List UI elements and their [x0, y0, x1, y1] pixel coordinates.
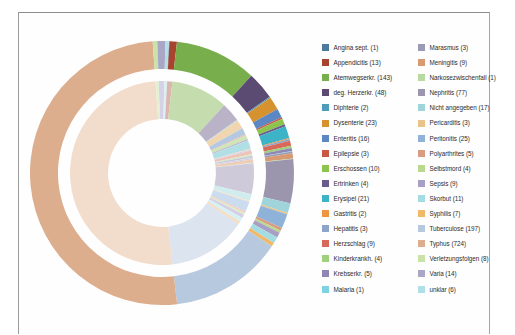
legend-swatch-icon — [322, 255, 329, 262]
legend-item-label: deg. Herzerkr. (48) — [334, 85, 387, 100]
legend-swatch-icon — [322, 180, 329, 187]
legend-swatch-icon — [322, 286, 329, 293]
legend-column-left: Angina sept. (1)Appendicitis (13)Atemweg… — [322, 40, 414, 320]
legend-swatch-icon — [418, 286, 425, 293]
legend-swatch-icon — [418, 165, 425, 172]
legend-item-label: Peritonitis (25) — [430, 131, 470, 146]
legend-swatch-icon — [418, 255, 425, 262]
legend-item[interactable]: Narkosezwischenfall (1) — [418, 70, 510, 85]
legend-item-label: Appendicitis (13) — [334, 55, 381, 70]
legend-item[interactable]: Appendicitis (13) — [322, 55, 414, 70]
legend-item-label: Herzschlag (9) — [334, 236, 375, 251]
legend-item[interactable]: Ertrinken (4) — [322, 176, 414, 191]
legend-item-label: Pericarditis (3) — [430, 115, 470, 130]
legend-swatch-icon — [322, 89, 329, 96]
legend-swatch-icon — [418, 74, 425, 81]
legend-item-label: Skorbut (11) — [430, 191, 464, 206]
legend-item-label: Selbstmord (4) — [430, 161, 471, 176]
legend-item-label: Atemwegserkr. (143) — [334, 70, 393, 85]
legend-swatch-icon — [322, 135, 329, 142]
legend-swatch-icon — [322, 120, 329, 127]
legend-swatch-icon — [418, 210, 425, 217]
legend-swatch-icon — [322, 225, 329, 232]
legend-item[interactable]: Typhus (724) — [418, 236, 510, 251]
outer-ring — [30, 41, 294, 305]
legend-item-label: Meningitis (9) — [430, 55, 468, 70]
legend-item[interactable]: Peritonitis (25) — [418, 131, 510, 146]
legend-item-label: Krebserkr. (5) — [334, 266, 372, 281]
legend-swatch-icon — [418, 120, 425, 127]
donut-chart — [28, 22, 296, 324]
legend-item-label: Kinderkrankh. (4) — [334, 251, 383, 266]
legend-item[interactable]: Tuberculose (197) — [418, 221, 510, 236]
legend-item[interactable]: Erschossen (10) — [322, 161, 414, 176]
legend-item[interactable]: Hepatitis (3) — [322, 221, 414, 236]
legend-item[interactable]: deg. Herzerkr. (48) — [322, 85, 414, 100]
legend-item[interactable]: Meningitis (9) — [418, 55, 510, 70]
legend-item-label: Hepatitis (3) — [334, 221, 368, 236]
legend-item[interactable]: Diphterie (2) — [322, 100, 414, 115]
legend-item[interactable]: Malaria (1) — [322, 282, 414, 297]
legend-item[interactable]: Polyarthrites (5) — [418, 146, 510, 161]
legend-swatch-icon — [322, 240, 329, 247]
legend-item-label: Narkosezwischenfall (1) — [430, 70, 496, 85]
legend-item-label: Ertrinken (4) — [334, 176, 369, 191]
legend-swatch-icon — [322, 195, 329, 202]
legend-item[interactable]: Skorbut (11) — [418, 191, 510, 206]
donut-svg — [28, 22, 296, 324]
legend-item[interactable]: Atemwegserkr. (143) — [322, 70, 414, 85]
legend-item-label: Nephritis (77) — [430, 85, 468, 100]
legend-swatch-icon — [322, 165, 329, 172]
legend-swatch-icon — [322, 210, 329, 217]
legend-item-label: Varia (14) — [430, 266, 457, 281]
legend-item[interactable]: Varia (14) — [418, 266, 510, 281]
legend-swatch-icon — [418, 59, 425, 66]
legend-item[interactable]: Selbstmord (4) — [418, 161, 510, 176]
legend-item-label: Dysenterie (23) — [334, 115, 377, 130]
legend-item-label: unklar (6) — [430, 282, 456, 297]
legend-swatch-icon — [418, 150, 425, 157]
legend-item-label: Syphilis (7) — [430, 206, 461, 221]
legend-swatch-icon — [322, 104, 329, 111]
legend-item-label: Tuberculose (197) — [430, 221, 481, 236]
legend-item[interactable]: Erysipel (21) — [322, 191, 414, 206]
legend-item-label: Epilepsie (3) — [334, 146, 369, 161]
legend-item-label: Sepsis (9) — [430, 176, 458, 191]
legend-swatch-icon — [418, 180, 425, 187]
legend-item[interactable]: Syphilis (7) — [418, 206, 510, 221]
legend-swatch-icon — [322, 59, 329, 66]
donut-segment[interactable] — [263, 159, 294, 203]
legend-item[interactable]: Verletzungsfolgen (8) — [418, 251, 510, 266]
legend-item-label: Polyarthrites (5) — [430, 146, 474, 161]
legend-swatch-icon — [322, 150, 329, 157]
legend-item[interactable]: Nephritis (77) — [418, 85, 510, 100]
legend-item[interactable]: Sepsis (9) — [418, 176, 510, 191]
legend-swatch-icon — [418, 104, 425, 111]
donut-segment[interactable] — [157, 41, 165, 69]
legend-swatch-icon — [322, 270, 329, 277]
legend-item[interactable]: Enteritis (16) — [322, 131, 414, 146]
legend-item[interactable]: Herzschlag (9) — [322, 236, 414, 251]
legend-item[interactable]: Gastritis (2) — [322, 206, 414, 221]
legend-item-label: Nicht angegeben (17) — [430, 100, 490, 115]
legend-swatch-icon — [418, 89, 425, 96]
legend-column-right: Marasmus (3)Meningitis (9)Narkosezwische… — [418, 40, 510, 320]
legend-swatch-icon — [322, 44, 329, 51]
legend-item-label: Gastritis (2) — [334, 206, 367, 221]
legend-swatch-icon — [418, 44, 425, 51]
legend-item-label: Typhus (724) — [430, 236, 467, 251]
legend-item[interactable]: Pericarditis (3) — [418, 115, 510, 130]
donut-segment[interactable] — [70, 81, 173, 265]
legend-item-label: Erschossen (10) — [334, 161, 380, 176]
legend-item[interactable]: Nicht angegeben (17) — [418, 100, 510, 115]
chart-area — [20, 14, 302, 332]
legend-item[interactable]: Krebserkr. (5) — [322, 266, 414, 281]
legend-swatch-icon — [418, 225, 425, 232]
legend-item-label: Verletzungsfolgen (8) — [430, 251, 489, 266]
legend-item[interactable]: Angina sept. (1) — [322, 40, 414, 55]
legend-item[interactable]: unklar (6) — [418, 282, 510, 297]
legend-item[interactable]: Marasmus (3) — [418, 40, 510, 55]
legend-item[interactable]: Epilepsie (3) — [322, 146, 414, 161]
legend-item[interactable]: Dysenterie (23) — [322, 115, 414, 130]
legend-item[interactable]: Kinderkrankh. (4) — [322, 251, 414, 266]
